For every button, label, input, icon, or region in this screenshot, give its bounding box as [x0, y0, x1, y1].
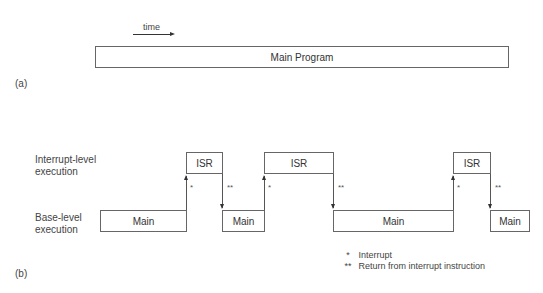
return-arrow-icon	[222, 174, 223, 208]
return-mark: **	[227, 183, 233, 192]
legend: * Interrupt ** Return from interrupt ins…	[340, 250, 485, 272]
main-block-4: Main	[490, 210, 530, 232]
interrupt-mark: *	[457, 183, 460, 192]
interrupt-level-line2: execution	[35, 166, 96, 178]
main-block-label: Main	[383, 216, 405, 227]
return-mark: **	[495, 183, 501, 192]
main-block-label: Main	[499, 216, 521, 227]
interrupt-arrow-icon	[264, 176, 265, 210]
main-block-1: Main	[100, 210, 187, 232]
isr-block-2: ISR	[264, 152, 334, 174]
isr-block-label: ISR	[291, 158, 308, 169]
legend-text: Interrupt	[359, 250, 393, 260]
return-arrow-icon	[490, 174, 491, 208]
time-label: time	[143, 22, 160, 32]
legend-symbol: **	[340, 261, 356, 272]
interrupt-mark: *	[268, 183, 271, 192]
legend-item-return: ** Return from interrupt instruction	[340, 261, 485, 272]
time-arrow: time	[133, 22, 173, 36]
return-arrow-icon	[333, 174, 334, 208]
interrupt-level-line1: Interrupt-level	[35, 154, 96, 166]
isr-block-label: ISR	[196, 158, 213, 169]
main-block-label: Main	[233, 216, 255, 227]
isr-block-3: ISR	[453, 152, 491, 174]
part-a-label: (a)	[15, 78, 27, 90]
interrupt-mark: *	[190, 183, 193, 192]
interrupt-arrow-icon	[453, 176, 454, 210]
return-mark: **	[338, 183, 344, 192]
isr-block-label: ISR	[464, 158, 481, 169]
part-b-label: (b)	[15, 268, 27, 280]
base-level-line1: Base-level	[35, 212, 82, 224]
main-block-label: Main	[133, 216, 155, 227]
main-program-label: Main Program	[271, 52, 334, 63]
isr-block-1: ISR	[186, 152, 223, 174]
main-block-2: Main	[222, 210, 265, 232]
main-program-box: Main Program	[95, 46, 509, 68]
legend-text: Return from interrupt instruction	[359, 261, 486, 271]
legend-symbol: *	[340, 250, 356, 261]
base-level-label: Base-level execution	[35, 212, 82, 236]
legend-item-interrupt: * Interrupt	[340, 250, 485, 261]
interrupt-level-label: Interrupt-level execution	[35, 154, 96, 178]
base-level-line2: execution	[35, 224, 82, 236]
main-block-3: Main	[333, 210, 454, 232]
interrupt-arrow-icon	[186, 176, 187, 210]
